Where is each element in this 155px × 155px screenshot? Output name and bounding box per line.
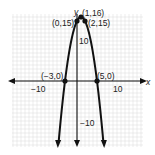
point-label-2-15: (2,15) — [88, 19, 110, 28]
x-tick-neg10: −10 — [31, 85, 45, 94]
y-tick-neg10: −10 — [80, 119, 94, 128]
y-axis-label: y — [74, 8, 78, 17]
x-tick-pos10: 10 — [113, 85, 122, 94]
y-tick-pos10: 10 — [79, 37, 88, 46]
point-label-0-15: (0,15) — [52, 19, 74, 28]
point-label-5-0: (5,0) — [97, 72, 114, 81]
graph-plot — [0, 0, 155, 155]
x-axis-label: x — [146, 78, 150, 87]
point-label-1-16: (1,16) — [82, 9, 104, 18]
point-label-m3-0: (−3,0) — [41, 72, 63, 81]
